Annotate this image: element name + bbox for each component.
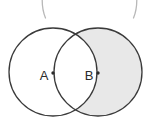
set-label-a: A — [40, 68, 49, 83]
set-label-b: B — [85, 68, 94, 83]
center-dot-a — [51, 71, 54, 74]
venn-diagram-figure: A B — [0, 0, 151, 129]
venn-diagram-canvas: A B — [0, 0, 151, 129]
center-dot-b — [96, 71, 99, 74]
